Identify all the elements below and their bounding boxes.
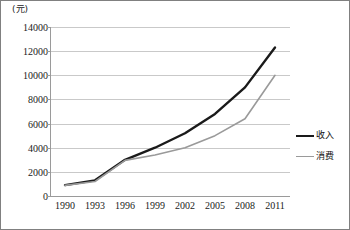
legend-label: 消费 — [316, 152, 334, 161]
series-line-1 — [65, 48, 275, 186]
x-axis-tick-label: 2002 — [175, 200, 195, 211]
legend-label: 收入 — [316, 131, 334, 140]
legend-swatch-icon — [296, 156, 314, 157]
chart-container: (元) 14000120001000080006000400020000 199… — [0, 0, 350, 230]
x-axis-tick-label: 1990 — [55, 200, 75, 211]
x-axis-tick-label: 2011 — [265, 200, 285, 211]
legend-item-2[interactable]: 消费 — [296, 152, 334, 161]
chart-border — [1, 1, 350, 230]
legend-swatch-icon — [296, 135, 314, 137]
legend-item-1[interactable]: 收入 — [296, 131, 334, 140]
x-axis-tick-label: 1993 — [85, 200, 105, 211]
x-axis-tick-label: 2008 — [235, 200, 255, 211]
plot-area — [0, 0, 350, 230]
series-line-2 — [65, 75, 275, 185]
x-axis-tick-label: 1999 — [145, 200, 165, 211]
x-axis-tick-label: 2005 — [205, 200, 225, 211]
x-axis-tick-label: 1996 — [115, 200, 135, 211]
